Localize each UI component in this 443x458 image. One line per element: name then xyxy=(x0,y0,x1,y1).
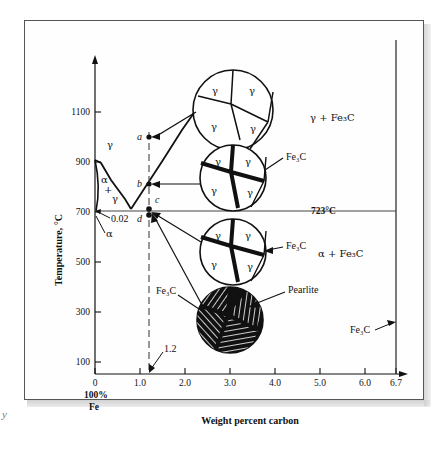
micrograph-b-gamma-2: γ xyxy=(245,156,251,167)
y-tick-label-700: 700 xyxy=(76,207,91,217)
x-axis-ticks: 0 1.0 2.0 3.0 4.0 5.0 6.0 6.7 xyxy=(93,368,403,388)
cementite-line-label: Fe₃C xyxy=(350,324,370,335)
gamma-plus-fe3c-region-label: γ + Fe₃C xyxy=(310,112,355,123)
micrograph-c-gamma-1: γ xyxy=(215,230,221,241)
micrograph-a-gamma-4: γ xyxy=(250,123,256,134)
micrograph-pearlite-caption: Pearlite xyxy=(288,284,319,295)
x-tick-label-0: 0 xyxy=(93,378,98,388)
x-tick-label-2: 2.0 xyxy=(179,378,191,388)
y-tick-label-900: 900 xyxy=(76,157,91,167)
micrograph-b: γ γ γ γ Fe₃C xyxy=(151,145,306,211)
alpha-plus-fe3c-region-label: α + Fe₃C xyxy=(318,248,364,259)
micrograph-b-caption: Fe₃C xyxy=(286,151,306,162)
y-tick-label-500: 500 xyxy=(76,257,91,267)
cooling-point-d-label: d xyxy=(137,213,143,224)
x-tick-label-1: 1.0 xyxy=(134,378,146,388)
x-axis-title: Weight percent carbon xyxy=(201,415,299,426)
x-tick-label-5: 5.0 xyxy=(314,378,326,388)
micrograph-c: γ γ γ γ Fe₃C xyxy=(151,212,306,285)
x-tick-label-3: 3.0 xyxy=(224,378,236,388)
phase-diagram-svg: 100 300 500 700 900 1100 0 1.0 2.0 3.0 4… xyxy=(0,0,443,458)
y-tick-label-1100: 1100 xyxy=(71,107,90,117)
alpha-solubility-label: 0.02 xyxy=(111,213,129,224)
eutectoid-temperature-label: 723°C xyxy=(311,206,336,216)
apg-gamma: γ xyxy=(112,193,118,204)
x-tick-label-4: 4.0 xyxy=(269,378,281,388)
alpha-phase-label: α xyxy=(106,228,113,239)
micrograph-c-gamma-2: γ xyxy=(245,230,251,241)
micrograph-b-gamma-1: γ xyxy=(215,156,221,167)
x-tick-label-6: 6.0 xyxy=(359,378,371,388)
origin-label-fe: Fe xyxy=(89,402,99,412)
micrograph-c-caption: Fe₃C xyxy=(286,240,306,251)
cementite-line-annotation: Fe₃C xyxy=(350,320,396,335)
cooling-point-d: d xyxy=(137,212,152,224)
y-tick-label-100: 100 xyxy=(76,357,91,367)
micrograph-pearlite-fe3c-label: Fe₃C xyxy=(156,285,176,296)
cooling-point-a-label: a xyxy=(137,131,142,142)
micrograph-c-gamma-4: γ xyxy=(247,261,253,272)
y-axis-ticks: 100 300 500 700 900 1100 xyxy=(71,107,101,367)
micrograph-b-gamma-3: γ xyxy=(211,185,217,196)
x-tick-label-67: 6.7 xyxy=(390,378,402,388)
cooling-point-c-label: c xyxy=(155,194,160,205)
y-axis xyxy=(92,55,98,374)
y-axis-title: Temperature, °C xyxy=(53,214,64,286)
gamma-region-label: γ xyxy=(107,139,113,150)
alloy-composition-label: 1.2 xyxy=(164,343,177,354)
micrograph-b-gamma-4: γ xyxy=(247,187,253,198)
x-axis xyxy=(95,371,408,377)
micrograph-a-gamma-3: γ xyxy=(211,121,217,132)
micrograph-a: γ γ γ γ xyxy=(151,70,273,150)
cooling-point-b-label: b xyxy=(137,178,142,189)
micrograph-a-gamma-2: γ xyxy=(249,85,255,96)
alloy-composition-annotation: 1.2 xyxy=(149,343,177,373)
origin-label-percent: 100% xyxy=(84,390,108,400)
micrograph-c-gamma-3: γ xyxy=(211,259,217,270)
figure-page: y 100 300 500 700 900 1100 xyxy=(0,0,443,458)
cooling-point-c: c xyxy=(146,194,160,212)
y-tick-label-300: 300 xyxy=(76,307,91,317)
micrograph-a-gamma-1: γ xyxy=(212,85,218,96)
